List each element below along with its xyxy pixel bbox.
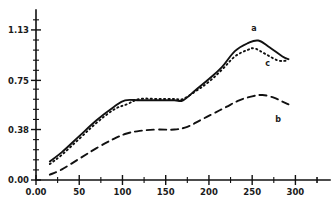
series-label-a: a <box>251 24 256 33</box>
y-tick-label: 1.13 <box>8 25 29 35</box>
axes-group <box>36 10 330 180</box>
chart-container: 0.000.380.751.13 0.0050100150200250300 a… <box>0 0 332 209</box>
series-annotations: acb <box>251 24 281 123</box>
x-tick-label: 200 <box>200 187 218 197</box>
x-tick-label: 100 <box>114 187 132 197</box>
x-axis-tick-labels: 0.0050100150200250300 <box>26 187 305 197</box>
x-tick-label: 0.00 <box>26 187 47 197</box>
series-line-a <box>50 40 289 161</box>
y-tick-label: 0.75 <box>8 76 29 86</box>
series-line-c <box>50 48 289 164</box>
series-line-b <box>50 95 289 175</box>
y-tick-label: 0.38 <box>8 125 29 135</box>
series-label-c: c <box>265 59 270 68</box>
series-label-b: b <box>275 115 281 124</box>
x-tick-label: 250 <box>243 187 261 197</box>
y-tick-label: 0.00 <box>8 175 29 185</box>
series-group <box>50 40 289 174</box>
x-tick-label: 300 <box>287 187 305 197</box>
x-tick-label: 150 <box>157 187 175 197</box>
x-tick-label: 50 <box>73 187 85 197</box>
line-chart: 0.000.380.751.13 0.0050100150200250300 a… <box>0 0 332 209</box>
y-axis-tick-labels: 0.000.380.751.13 <box>8 25 29 185</box>
